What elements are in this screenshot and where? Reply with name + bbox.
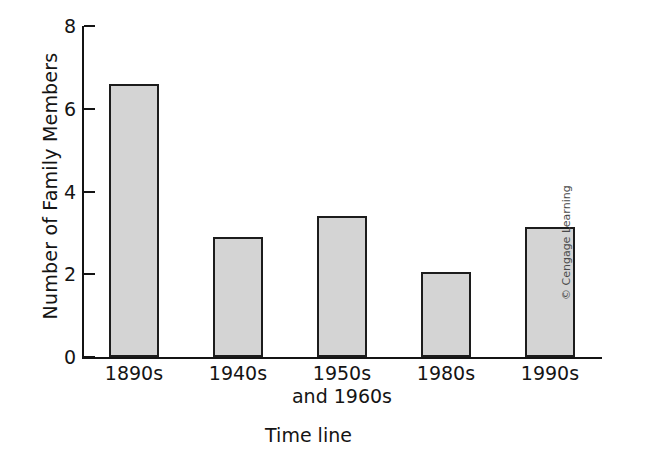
x-axis-line [82, 357, 602, 359]
bar [109, 84, 159, 357]
x-axis-tick-label-line: 1950s [313, 362, 371, 384]
x-axis-title-text: Time line [265, 424, 352, 446]
x-axis-tick-label: 1940s [186, 362, 290, 385]
x-axis-tick-labels: 1890s1940s1950sand 1960s1980s1990s [82, 362, 602, 424]
y-axis-tick-label: 2 [46, 265, 76, 284]
y-axis-tick-label: 0 [46, 348, 76, 367]
x-axis-tick-label: 1950sand 1960s [290, 362, 394, 408]
x-axis-tick-label-line: 1890s [105, 362, 163, 384]
x-axis-title: Time line [0, 424, 661, 446]
bar [317, 216, 367, 357]
bar [213, 237, 263, 357]
copyright-notice: © Cengage Learning [560, 130, 573, 300]
x-axis-tick-label: 1980s [394, 362, 498, 385]
y-axis-tick-label: 6 [46, 99, 76, 118]
bar-chart-figure: Number of Family Members 02468 1890s1940… [0, 0, 661, 468]
y-axis-tick-label: 4 [46, 182, 76, 201]
y-axis-tick-labels: 02468 [46, 26, 76, 357]
y-axis-tick-label: 8 [46, 17, 76, 36]
bar [421, 272, 471, 357]
x-axis-tick-label-line: and 1960s [290, 385, 394, 408]
x-axis-tick-label-line: 1990s [521, 362, 579, 384]
x-axis-tick-label-line: 1980s [417, 362, 475, 384]
plot-area [82, 26, 602, 357]
x-axis-tick-label: 1890s [82, 362, 186, 385]
x-axis-tick-label-line: 1940s [209, 362, 267, 384]
x-axis-tick-label: 1990s [498, 362, 602, 385]
bar-series [82, 26, 602, 357]
